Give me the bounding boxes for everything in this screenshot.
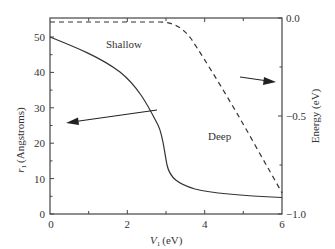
x-tick-4: 4 [202,218,208,230]
x-tick-2: 2 [125,218,131,230]
y2-tick-minus-1-0: −1.0 [286,208,306,220]
x-tick-0: 0 [48,218,54,230]
y-tick-40: 40 [34,66,46,78]
y-tick-20: 20 [34,137,46,149]
chart: 0 10 20 30 40 50 0 2 4 6 0.0 −0.5 [0,0,335,249]
plot-frame [50,18,282,214]
right-axis-ticks [278,18,282,214]
x-tick-6: 6 [279,218,285,230]
arrow-right-icon [240,77,276,85]
arrow-left-icon [66,110,157,125]
y-axis-label: r1(Angstroms) [14,107,28,173]
left-axis-tick-labels: 0 10 20 30 40 50 [34,31,46,220]
y-tick-50: 50 [34,31,46,43]
y2-axis-label: Energy (eV) [309,88,322,143]
y-tick-30: 30 [34,102,46,114]
x-axis-label: V1(eV) [150,234,183,248]
bottom-axis-tick-labels: 0 2 4 6 [48,218,285,230]
y-tick-10: 10 [34,173,46,185]
y2-tick-0: 0.0 [286,12,300,24]
y2-tick-minus-0-5: −0.5 [286,110,306,122]
y-tick-0: 0 [40,208,46,220]
right-axis-tick-labels: 0.0 −0.5 −1.0 [286,12,306,220]
deep-label: Deep [208,130,232,142]
shallow-label: Shallow [106,38,142,50]
r1-curve [50,37,282,198]
energy-curve [50,22,282,193]
